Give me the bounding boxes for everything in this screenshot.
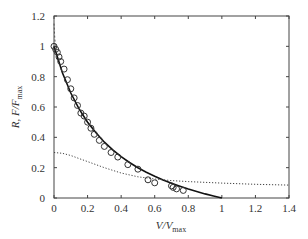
data-point <box>125 162 131 168</box>
y-tick-label: 0.4 <box>31 131 45 143</box>
x-axis-label: V/Vmax <box>156 219 186 234</box>
y-tick-label: 0.6 <box>31 101 45 113</box>
data-point <box>145 177 151 183</box>
y-tick-label: 0 <box>40 192 46 204</box>
y-tick-label: 1.2 <box>31 10 45 22</box>
data-point <box>96 137 102 143</box>
data-series <box>51 24 289 198</box>
x-tick-label: 1 <box>219 202 225 214</box>
data-point <box>152 180 158 186</box>
x-tick-label: 0 <box>51 202 57 214</box>
y-tick-label: 0.8 <box>31 71 45 83</box>
x-tick-label: 0.2 <box>81 202 95 214</box>
data-point <box>180 187 186 193</box>
series-line <box>54 46 222 198</box>
y-tick-label: 0.2 <box>31 162 45 174</box>
x-tick-label: 0.4 <box>114 202 128 214</box>
plot-frame <box>54 16 289 198</box>
x-tick-label: 1.4 <box>282 202 296 214</box>
x-tick-label: 0.8 <box>181 202 195 214</box>
data-point <box>108 150 114 156</box>
data-point <box>101 143 107 149</box>
y-tick-label: 1 <box>40 40 46 52</box>
y-axis-ticks: 00.20.40.60.811.2 <box>31 10 289 204</box>
y-axis-label: R, F/Fmax <box>9 86 24 130</box>
chart: 00.20.40.60.811.21.4 00.20.40.60.811.2 V… <box>0 0 308 239</box>
x-tick-label: 1.2 <box>249 202 263 214</box>
series-line <box>54 153 289 186</box>
x-tick-label: 0.6 <box>148 202 162 214</box>
